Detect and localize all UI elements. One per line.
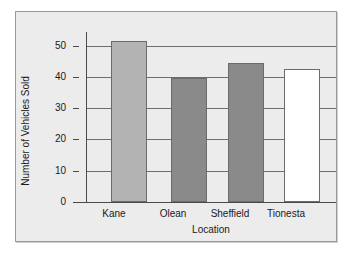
bar-olean: [171, 78, 207, 202]
y-tick-stub-20: [73, 139, 79, 140]
y-tick-stub-40: [73, 77, 79, 78]
y-tick-label-10: 10: [44, 166, 66, 176]
bar-chart-figure: 50 40 30 20 10 0 Kane Olean Sheffield Ti…: [0, 0, 353, 262]
y-tick-label-50: 50: [44, 41, 66, 51]
chart-panel: 50 40 30 20 10 0 Kane Olean Sheffield Ti…: [15, 11, 337, 242]
x-tick-label-sheffield: Sheffield: [199, 208, 261, 220]
y-tick-stub-10: [73, 171, 79, 172]
plot-area: [86, 32, 336, 202]
x-axis-line: [73, 202, 336, 203]
y-axis-label-wrap: Number of Vehicles Sold: [24, 40, 38, 180]
x-tick-label-olean: Olean: [143, 208, 203, 220]
y-tick-stub-50: [73, 46, 79, 47]
y-tick-label-20: 20: [44, 134, 66, 144]
y-axis-label: Number of Vehicles Sold: [20, 66, 31, 196]
y-tick-stub-30: [73, 108, 79, 109]
bar-kane: [111, 41, 147, 202]
y-tick-label-40: 40: [44, 72, 66, 82]
y-axis-line: [86, 32, 87, 203]
bar-tionesta: [284, 69, 320, 202]
x-tick-label-tionesta: Tionesta: [255, 208, 317, 220]
y-tick-label-0: 0: [44, 197, 66, 207]
bar-sheffield: [228, 63, 264, 202]
y-tick-label-30: 30: [44, 103, 66, 113]
x-axis-label: Location: [86, 224, 336, 235]
x-tick-label-kane: Kane: [84, 208, 144, 220]
